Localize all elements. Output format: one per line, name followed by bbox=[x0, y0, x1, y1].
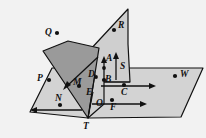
point-label-A: A bbox=[106, 54, 112, 64]
point-label-E: E bbox=[86, 88, 92, 98]
geometry-figure: Q R P A S W M D B C E N O F T bbox=[0, 0, 206, 138]
dot-W bbox=[173, 74, 177, 78]
point-label-P: P bbox=[37, 74, 43, 84]
point-label-B: B bbox=[105, 75, 111, 85]
dot-A bbox=[102, 66, 106, 70]
point-label-S: S bbox=[120, 62, 125, 72]
dot-P bbox=[47, 78, 51, 82]
point-label-M: M bbox=[73, 78, 81, 88]
point-label-N: N bbox=[55, 94, 62, 104]
point-label-D: D bbox=[88, 70, 95, 80]
point-label-Q: Q bbox=[45, 28, 52, 38]
point-label-C: C bbox=[121, 88, 127, 98]
point-label-W: W bbox=[180, 70, 188, 80]
geometry-diagram bbox=[0, 0, 206, 138]
dot-Q bbox=[55, 31, 59, 35]
dot-N bbox=[58, 103, 62, 107]
dot-R bbox=[112, 28, 116, 32]
point-label-R: R bbox=[118, 21, 124, 31]
point-label-T: T bbox=[83, 122, 89, 132]
point-label-O: O bbox=[96, 99, 103, 109]
point-label-F: F bbox=[110, 103, 116, 113]
